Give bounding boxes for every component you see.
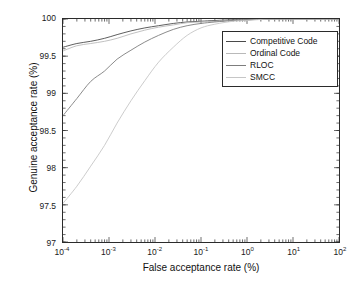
x-tick-label: 100 [241, 248, 254, 257]
x-tick-label: 10-3 [101, 248, 116, 257]
x-tick-label: 10-2 [147, 248, 162, 257]
legend-item: SMCC [226, 71, 333, 83]
legend-item: Competitive Code [226, 35, 333, 47]
x-tick-label: 101 [287, 248, 300, 257]
figure-canvas: 9797.59898.59999.5100 10-410-310-210-110… [0, 0, 364, 285]
x-tick-label: 10-1 [194, 248, 209, 257]
legend-line-swatch [226, 41, 246, 42]
legend-line-swatch [226, 65, 246, 66]
legend-item: Ordinal Code [226, 47, 333, 59]
legend-item-label: RLOC [250, 60, 274, 70]
legend-box: Competitive CodeOrdinal CodeRLOCSMCC [222, 31, 338, 87]
legend-line-swatch [226, 53, 246, 54]
x-axis-title: False acceptance rate (%) [62, 262, 340, 273]
x-tick-label: 102 [334, 248, 347, 257]
y-axis-title: Genuine acceptance rate (%) [28, 38, 39, 218]
legend-line-swatch [226, 77, 246, 78]
legend-item-label: Competitive Code [250, 36, 318, 46]
legend-item-label: Ordinal Code [250, 48, 300, 58]
legend-item: RLOC [226, 59, 333, 71]
legend-item-label: SMCC [250, 72, 275, 82]
x-tick-label: 10-4 [55, 248, 70, 257]
